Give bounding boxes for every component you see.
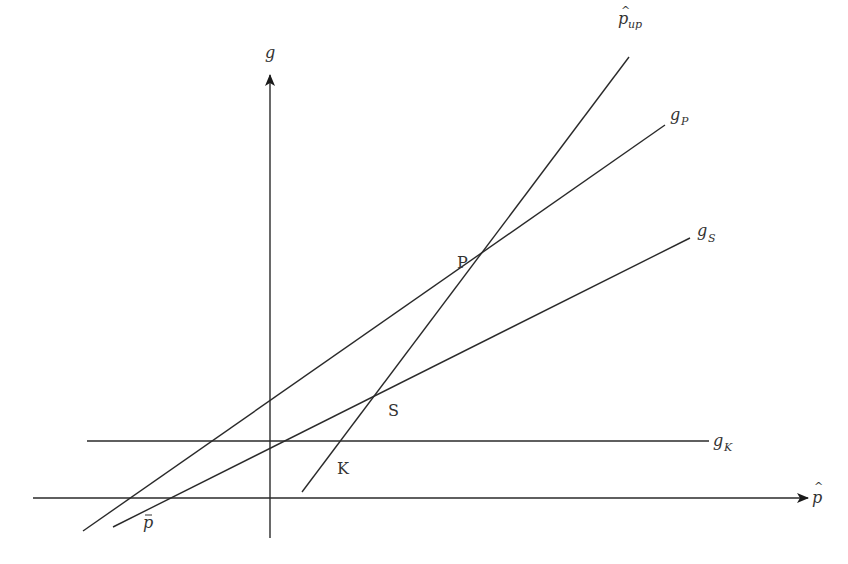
line-g-s <box>113 238 690 527</box>
svg-text:S: S <box>708 232 716 245</box>
point-label-p: P <box>457 253 468 272</box>
x-axis-label: p ^ <box>812 480 823 507</box>
label-g-k: g K <box>713 431 733 454</box>
svg-text:^: ^ <box>814 480 823 493</box>
y-axis-label: g <box>265 43 275 62</box>
label-g-p: g P <box>670 105 689 128</box>
svg-text:g: g <box>697 221 707 240</box>
svg-text:g: g <box>713 431 723 450</box>
svg-text:up: up <box>628 18 642 31</box>
svg-text:P: P <box>680 115 689 128</box>
label-g-s: g S <box>697 221 716 245</box>
svg-text:K: K <box>723 441 733 454</box>
svg-text:g: g <box>670 105 680 124</box>
label-p-up: ^ p up <box>618 4 642 31</box>
diagram-canvas: p ^ g g K g S g P ^ p up P S K p <box>0 0 848 564</box>
line-g-p <box>83 125 665 531</box>
svg-text:p: p <box>618 9 628 28</box>
point-label-k: K <box>337 459 350 478</box>
line-p-up <box>302 57 629 492</box>
point-label-s: S <box>388 401 399 420</box>
point-label-p-bar: p <box>143 513 153 532</box>
svg-text:p: p <box>143 513 153 532</box>
